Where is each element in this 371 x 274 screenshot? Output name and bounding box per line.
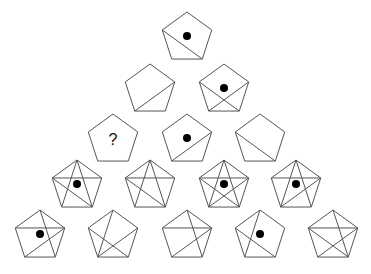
dot-marker xyxy=(183,32,191,40)
diagonal-line xyxy=(98,228,138,257)
pentagon-cell xyxy=(199,64,248,111)
pentagon-pyramid xyxy=(0,0,371,274)
pentagon-cell xyxy=(125,160,174,207)
pentagon-cell xyxy=(15,210,64,257)
pentagon-cell xyxy=(125,64,174,111)
diagonal-line xyxy=(162,30,202,59)
diagonal-line xyxy=(172,228,212,257)
dot-marker xyxy=(256,230,264,238)
dot-marker xyxy=(73,180,81,188)
pentagon-cell xyxy=(162,12,211,59)
diagonal-line xyxy=(235,132,275,161)
diagonal-line xyxy=(52,178,92,207)
diagonal-line xyxy=(187,210,202,257)
diagonal-line xyxy=(25,228,65,257)
diagonal-line xyxy=(333,210,348,257)
puzzle-canvas: ? xyxy=(0,0,371,274)
diagonal-line xyxy=(235,228,275,257)
pentagon-cell xyxy=(308,210,357,257)
pentagon-cell xyxy=(162,114,211,161)
pentagon-cell xyxy=(271,160,320,207)
diagonal-line xyxy=(281,178,321,207)
question-mark: ? xyxy=(109,131,118,149)
dot-marker xyxy=(183,134,191,142)
diagonal-line xyxy=(88,228,128,257)
diagonal-line xyxy=(308,228,348,257)
diagonal-line xyxy=(135,82,175,111)
diagonal-line xyxy=(135,160,150,207)
pentagon-cell xyxy=(52,160,101,207)
diagonal-line xyxy=(209,82,249,111)
dot-marker xyxy=(36,230,44,238)
pentagon-cell xyxy=(88,210,137,257)
dot-marker xyxy=(220,84,228,92)
diagonal-line xyxy=(318,228,358,257)
dot-marker xyxy=(292,180,300,188)
pentagon-cell xyxy=(199,160,248,207)
diagonal-line xyxy=(199,178,239,207)
diagonal-line xyxy=(199,82,239,111)
diagonal-line xyxy=(172,132,212,161)
diagonal-line xyxy=(209,178,249,207)
pentagon-cell xyxy=(162,210,211,257)
pentagon-cell xyxy=(235,114,284,161)
dot-marker xyxy=(220,180,228,188)
diagonal-line xyxy=(98,210,113,257)
pentagon-cell xyxy=(235,210,284,257)
diagonal-line xyxy=(125,178,165,207)
diagonal-line xyxy=(150,160,165,207)
